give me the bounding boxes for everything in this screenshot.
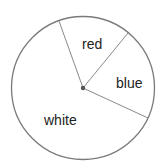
center-dot	[81, 86, 85, 90]
pie-chart: red blue white	[0, 0, 162, 164]
slice-label-red: red	[82, 36, 102, 52]
slice-label-white: white	[43, 112, 77, 128]
slice-label-blue: blue	[116, 75, 143, 91]
